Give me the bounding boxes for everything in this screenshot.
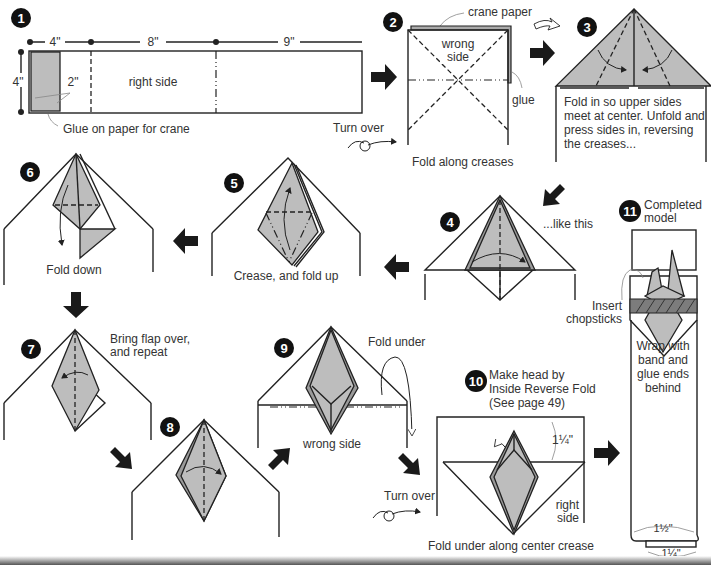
svg-text:Glue on paper for crane: Glue on paper for crane [63,122,190,136]
svg-text:side: side [447,50,469,64]
next-arrow-icon [110,447,132,469]
turn-over-icon [373,511,420,521]
svg-text:crane paper: crane paper [468,5,532,19]
svg-text:...like this: ...like this [543,217,593,231]
svg-text:1: 1 [17,11,24,26]
step-number-7: 7 [21,339,41,359]
next-arrow-icon [530,40,555,66]
svg-text:Fold in so upper sides: Fold in so upper sides [564,95,681,109]
next-arrow-icon [371,64,397,90]
svg-text:Fold along creases: Fold along creases [412,155,513,169]
svg-text:4: 4 [446,215,454,230]
svg-text:4": 4" [13,75,24,89]
svg-text:glue ends: glue ends [637,367,689,381]
step-number-3: 3 [577,17,597,37]
svg-text:Wrap with: Wrap with [636,339,689,353]
svg-text:Bring flap over,: Bring flap over, [110,332,190,346]
svg-text:side: side [557,511,579,525]
svg-text:8: 8 [166,420,173,435]
svg-text:Turn over: Turn over [333,121,384,135]
next-arrow-icon [268,448,290,470]
svg-text:4": 4" [50,35,61,49]
svg-text:behind: behind [645,381,681,395]
svg-text:Crease, and fold up: Crease, and fold up [234,269,339,283]
svg-text:Completed: Completed [644,198,702,212]
svg-text:band and: band and [638,353,688,367]
svg-text:11: 11 [623,204,637,219]
svg-text:Turn over: Turn over [384,489,435,503]
step-8: 8 [132,417,279,540]
step-4: 4 ...like this [425,196,593,300]
strip-paper [29,51,362,113]
svg-text:Fold under: Fold under [368,335,425,349]
svg-text:and repeat: and repeat [110,345,168,359]
svg-text:Insert: Insert [592,299,623,313]
step-number-11: 11 [619,200,641,222]
svg-text:Make head by: Make head by [489,368,564,382]
svg-text:chopsticks: chopsticks [566,312,622,326]
prev-arrow-icon [384,254,409,280]
svg-text:press sides in, reversing: press sides in, reversing [564,123,693,137]
svg-text:2: 2 [389,15,396,30]
step-6: 6 Fold down [4,154,153,285]
svg-text:meet at center. Unfold and: meet at center. Unfold and [564,109,705,123]
crane-paper-patch [31,52,60,111]
svg-text:1½": 1½" [653,522,672,534]
page-bottom-edge [0,556,711,565]
svg-text:10: 10 [469,374,483,389]
step-number-10: 10 [465,370,487,392]
step-11: 11 Completed model Insert chopsticks Wra… [566,198,702,559]
svg-text:Inside Reverse Fold: Inside Reverse Fold [489,382,596,396]
step-1: 1 4" 8" 9" 4" 2" right side Glue on pape… [10,8,362,136]
svg-text:wrong: wrong [441,37,475,51]
svg-text:right side: right side [129,75,178,89]
step-number-1: 1 [11,8,31,28]
instruction-diagram: 1 4" 8" 9" 4" 2" right side Glue on pape… [0,0,711,565]
svg-text:1¼": 1¼" [552,433,573,447]
svg-text:5: 5 [230,176,237,191]
next-arrow-icon [543,184,565,206]
step-number-2: 2 [383,12,403,32]
svg-text:7: 7 [27,342,34,357]
step-number-4: 4 [440,212,460,232]
step-3: 3 Fold in so upper sides meet at center.… [556,9,711,162]
svg-text:Fold down: Fold down [46,263,101,277]
svg-text:2": 2" [68,75,79,89]
svg-text:wrong side: wrong side [302,437,361,451]
step-number-9: 9 [274,338,294,358]
step-9: 9 Fold under wrong side [258,327,425,451]
hollow-arrow-icon [534,18,560,30]
svg-text:Fold under along center crease: Fold under along center crease [428,539,594,553]
step-number-6: 6 [20,162,40,182]
step-number-5: 5 [224,173,244,193]
step-number-8: 8 [160,417,180,437]
step-5: 5 Crease, and fold up [212,158,360,283]
prev-arrow-icon [173,228,198,254]
next-arrow-icon [398,453,420,475]
svg-text:right: right [556,498,580,512]
svg-text:3: 3 [583,20,590,35]
svg-text:glue: glue [512,93,535,107]
svg-text:(See page 49): (See page 49) [489,396,565,410]
next-arrow-icon [594,440,620,466]
svg-text:9": 9" [284,35,295,49]
turn-over-icon [348,141,396,151]
svg-text:model: model [644,211,677,225]
svg-text:9: 9 [280,341,287,356]
svg-text:8": 8" [148,35,159,49]
svg-text:6: 6 [26,165,33,180]
next-arrow-icon [63,292,89,318]
svg-text:the creases...: the creases... [564,137,636,151]
step-2: 2 crane paper wrong side glue Turn over … [333,5,535,169]
